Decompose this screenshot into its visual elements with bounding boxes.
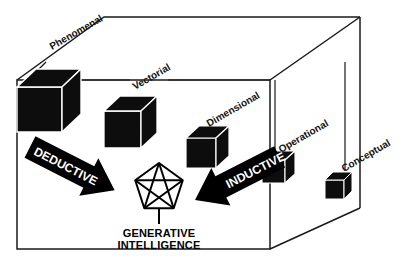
axis-label-phenomenal: Phenomenal bbox=[48, 12, 105, 51]
axis-label-operational-text: Operational bbox=[277, 117, 331, 154]
wireframe-bottom-right-diagonal bbox=[270, 208, 360, 249]
cube-phenomenal bbox=[17, 69, 81, 132]
pentagram-edge-2 bbox=[135, 180, 173, 208]
cube-front-face bbox=[325, 180, 344, 199]
axis-label-dimensional-text: Dimensional bbox=[205, 89, 262, 128]
cube-front-face bbox=[17, 87, 62, 132]
generative-intelligence-caption-line1: GENERATIVE bbox=[123, 227, 196, 239]
cube-front-face bbox=[186, 138, 216, 168]
cube-vectorial bbox=[104, 96, 157, 148]
pentagram-edge-1 bbox=[159, 163, 174, 208]
axis-label-operational: Operational bbox=[277, 117, 331, 154]
axis-label-phenomenal-text: Phenomenal bbox=[48, 12, 105, 51]
wireframe-top-right-diagonal bbox=[270, 17, 360, 80]
axis-label-dimensional: Dimensional bbox=[205, 89, 262, 128]
axis-label-vectorial-text: Vectorial bbox=[131, 61, 173, 91]
pentagram-edge-5 bbox=[144, 163, 159, 208]
cube-conceptual bbox=[325, 172, 352, 199]
pentagram-edge-4 bbox=[144, 180, 182, 208]
cube-front-face bbox=[104, 111, 141, 148]
axis-label-vectorial: Vectorial bbox=[131, 61, 173, 91]
diagram-canvas: Phenomenal Vectorial Dimensional Operati… bbox=[0, 0, 408, 271]
generative-intelligence-node bbox=[135, 163, 183, 224]
axis-label-conceptual: Conceptual bbox=[340, 137, 393, 174]
axis-label-conceptual-text: Conceptual bbox=[340, 137, 393, 174]
cube-dimensional bbox=[186, 126, 229, 168]
diagram-svg: Phenomenal Vectorial Dimensional Operati… bbox=[0, 0, 408, 271]
generative-intelligence-caption-line2: INTELLIGENCE bbox=[117, 239, 200, 251]
